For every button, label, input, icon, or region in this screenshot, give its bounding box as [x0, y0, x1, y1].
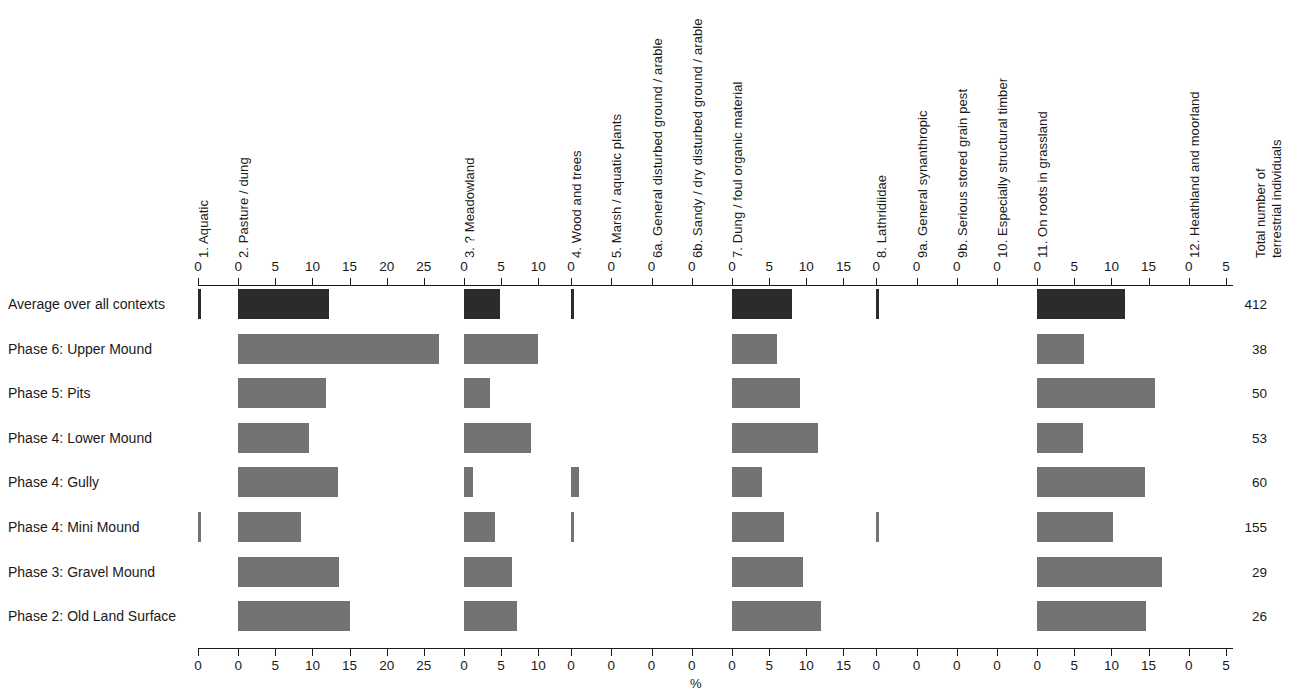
tick-top-13-15	[1149, 278, 1150, 285]
tick-label-top-13-10: 10	[1091, 260, 1131, 274]
tick-bottom-2-10	[312, 649, 313, 656]
tick-bottom-8-5	[769, 649, 770, 656]
bar-p13-r3	[1037, 378, 1154, 408]
tick-bottom-1-0	[198, 649, 199, 656]
tick-label-bottom-2-15: 15	[330, 659, 370, 673]
tick-label-bottom-7-0: 0	[672, 659, 712, 673]
tick-label-bottom-14-5: 5	[1206, 659, 1246, 673]
tick-top-13-5	[1074, 278, 1075, 285]
tick-bottom-11-0	[957, 649, 958, 656]
total-value-7: 29	[1207, 566, 1267, 580]
tick-bottom-3-10	[538, 649, 539, 656]
bar-p8-r1	[732, 289, 792, 319]
tick-top-4-0	[571, 278, 572, 285]
panel-label-12: 10. Especially structural timber	[996, 0, 1010, 258]
bar-p13-r5	[1037, 467, 1145, 497]
tick-top-13-10	[1111, 278, 1112, 285]
beetle-ecological-grouping-chart: 1. Aquatic002. Pasture / dung00551010151…	[0, 0, 1306, 690]
tick-top-2-25	[424, 278, 425, 285]
tick-label-top-4-0: 0	[551, 260, 591, 274]
bar-p3-r7	[464, 557, 512, 587]
bar-p2-r6	[238, 512, 300, 542]
bar-p4-r5	[571, 467, 579, 497]
tick-label-bottom-4-0: 0	[551, 659, 591, 673]
tick-bottom-9-0	[876, 649, 877, 656]
total-value-8: 26	[1207, 610, 1267, 624]
bar-p8-r7	[732, 557, 803, 587]
tick-label-top-10-0: 0	[897, 260, 937, 274]
total-value-1: 412	[1207, 298, 1267, 312]
tick-top-3-0	[464, 278, 465, 285]
tick-label-top-11-0: 0	[937, 260, 977, 274]
panel-label-2: 2. Pasture / dung	[237, 0, 251, 258]
tick-bottom-4-0	[571, 649, 572, 656]
tick-label-top-1-0: 0	[178, 260, 218, 274]
total-value-6: 155	[1207, 521, 1267, 535]
tick-bottom-8-0	[732, 649, 733, 656]
bar-p1-r6	[198, 512, 201, 542]
bar-p2-r1	[238, 289, 329, 319]
bar-p8-r8	[732, 601, 821, 631]
bar-p3-r3	[464, 378, 490, 408]
tick-label-bottom-2-20: 20	[367, 659, 407, 673]
tick-label-bottom-2-10: 10	[292, 659, 332, 673]
tick-label-bottom-6-0: 0	[632, 659, 672, 673]
tick-label-top-2-25: 25	[404, 260, 444, 274]
tick-top-14-0	[1189, 278, 1190, 285]
total-value-5: 60	[1207, 476, 1267, 490]
bar-p8-r4	[732, 423, 818, 453]
tick-label-bottom-3-0: 0	[444, 659, 484, 673]
tick-label-bottom-8-0: 0	[712, 659, 752, 673]
tick-label-bottom-13-5: 5	[1054, 659, 1094, 673]
tick-bottom-10-0	[917, 649, 918, 656]
tick-label-top-14-5: 5	[1206, 260, 1246, 274]
tick-label-top-2-5: 5	[255, 260, 295, 274]
tick-bottom-13-10	[1111, 649, 1112, 656]
bar-p2-r8	[238, 601, 349, 631]
panel-label-6: 6a. General disturbed ground / arable	[651, 0, 665, 258]
panel-label-8: 7. Dung / foul organic material	[731, 0, 745, 258]
bar-p3-r8	[464, 601, 517, 631]
tick-top-2-5	[275, 278, 276, 285]
totals-header-line-2: terrestrial individuals	[1269, 118, 1285, 258]
tick-bottom-6-0	[652, 649, 653, 656]
tick-top-2-0	[238, 278, 239, 285]
tick-label-top-3-5: 5	[481, 260, 521, 274]
tick-label-top-2-15: 15	[330, 260, 370, 274]
tick-top-8-0	[732, 278, 733, 285]
row-label-6: Phase 4: Mini Mound	[8, 520, 193, 534]
tick-label-top-12-0: 0	[977, 260, 1017, 274]
tick-bottom-2-20	[387, 649, 388, 656]
bar-p3-r2	[464, 334, 538, 364]
tick-label-top-8-10: 10	[786, 260, 826, 274]
row-label-5: Phase 4: Gully	[8, 475, 193, 489]
row-label-3: Phase 5: Pits	[8, 386, 193, 400]
bar-p3-r1	[464, 289, 500, 319]
tick-top-13-0	[1037, 278, 1038, 285]
bar-p8-r5	[732, 467, 762, 497]
tick-label-bottom-12-0: 0	[977, 659, 1017, 673]
bar-p13-r2	[1037, 334, 1084, 364]
panel-label-4: 4. Wood and trees	[570, 0, 584, 258]
total-value-3: 50	[1207, 387, 1267, 401]
tick-bottom-8-10	[806, 649, 807, 656]
bar-p9-r1	[876, 289, 879, 319]
row-label-4: Phase 4: Lower Mound	[8, 431, 193, 445]
bar-p13-r7	[1037, 557, 1162, 587]
bar-p2-r7	[238, 557, 339, 587]
x-axis-unit-label: %	[690, 677, 702, 690]
tick-label-top-13-5: 5	[1054, 260, 1094, 274]
tick-top-2-10	[312, 278, 313, 285]
bar-p8-r2	[732, 334, 777, 364]
tick-bottom-3-5	[501, 649, 502, 656]
tick-label-bottom-2-5: 5	[255, 659, 295, 673]
tick-label-top-9-0: 0	[856, 260, 896, 274]
tick-top-8-10	[806, 278, 807, 285]
tick-bottom-2-25	[424, 649, 425, 656]
bar-p2-r4	[238, 423, 308, 453]
tick-top-3-10	[538, 278, 539, 285]
row-label-7: Phase 3: Gravel Mound	[8, 565, 193, 579]
tick-label-bottom-2-25: 25	[404, 659, 444, 673]
tick-top-1-0	[198, 278, 199, 285]
tick-label-top-13-0: 0	[1017, 260, 1057, 274]
